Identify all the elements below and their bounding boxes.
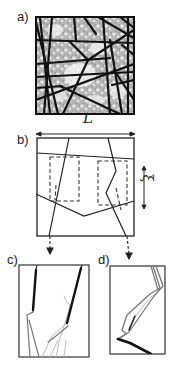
figure-canvas xyxy=(0,0,172,367)
sampling-window-right xyxy=(98,161,127,205)
zoom-arrows xyxy=(47,236,132,259)
panel-a-fracture-network xyxy=(36,17,134,114)
correlation-length-arrow-xi xyxy=(142,166,146,209)
zoom-arrow-to-d xyxy=(127,236,129,255)
fracture-lines-b xyxy=(36,138,134,236)
length-arrow-L xyxy=(36,132,135,136)
sampling-window-left xyxy=(50,157,79,201)
sampling-windows xyxy=(50,157,127,210)
panel-d-zoom-right xyxy=(110,266,165,354)
panel-c-zoom-left xyxy=(19,265,89,357)
panel-b-schematic xyxy=(36,132,146,236)
